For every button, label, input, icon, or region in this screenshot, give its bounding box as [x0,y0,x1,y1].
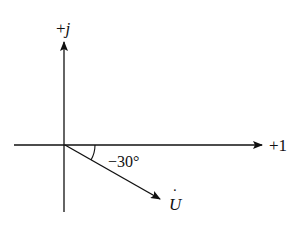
plus-sign: + [56,19,66,38]
angle-arc [91,145,95,160]
phasor-dot: ˙ [172,186,178,203]
phasor-label: ˙ U [169,196,181,213]
real-axis-label: +1 [269,137,287,154]
imaginary-axis-label: +j [56,20,70,37]
j-symbol: j [66,19,71,38]
diagram-graphics [0,0,304,238]
phasor-diagram: +j +1 −30° ˙ U [0,0,304,238]
angle-label: −30° [108,154,139,170]
